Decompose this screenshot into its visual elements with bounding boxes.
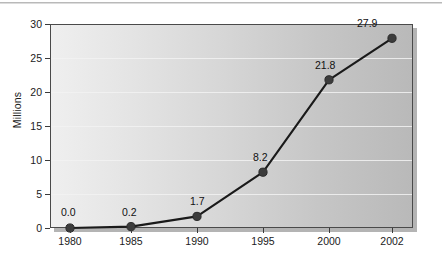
x-tick-mark-1980 bbox=[70, 228, 71, 233]
x-tick-label-1990: 1990 bbox=[175, 236, 219, 247]
chart-figure: Millions 30 25 20 15 10 5 0 0.0 bbox=[0, 0, 442, 270]
y-tick-mark-0 bbox=[45, 228, 50, 229]
x-tick-mark-1985 bbox=[131, 228, 132, 233]
x-tick-mark-1990 bbox=[197, 228, 198, 233]
x-tick-mark-2000 bbox=[329, 228, 330, 233]
series-polyline bbox=[70, 38, 392, 228]
data-label-2002: 27.9 bbox=[357, 18, 377, 29]
y-tick-label-30: 30 bbox=[0, 19, 42, 30]
x-tick-label-1980: 1980 bbox=[48, 236, 92, 247]
data-label-1980: 0.0 bbox=[61, 207, 76, 218]
data-point-2000[interactable] bbox=[325, 76, 333, 84]
data-point-1995[interactable] bbox=[259, 168, 267, 176]
data-series-line bbox=[50, 24, 413, 228]
data-label-2000: 21.8 bbox=[315, 60, 335, 71]
x-tick-label-1995: 1995 bbox=[241, 236, 285, 247]
y-tick-label-15: 15 bbox=[0, 121, 42, 132]
data-label-1995: 8.2 bbox=[253, 152, 268, 163]
data-point-2002[interactable] bbox=[388, 34, 396, 42]
y-axis-title: Millions bbox=[11, 75, 23, 145]
data-label-1985: 0.2 bbox=[122, 207, 137, 218]
x-tick-label-1985: 1985 bbox=[109, 236, 153, 247]
y-tick-label-5: 5 bbox=[0, 189, 42, 200]
x-tick-mark-1995 bbox=[263, 228, 264, 233]
y-tick-label-25: 25 bbox=[0, 53, 42, 64]
x-tick-label-2000: 2000 bbox=[307, 236, 351, 247]
data-label-1990: 1.7 bbox=[190, 196, 205, 207]
y-tick-label-10: 10 bbox=[0, 155, 42, 166]
data-point-1990[interactable] bbox=[193, 212, 201, 220]
x-tick-label-2002: 2002 bbox=[370, 236, 414, 247]
x-tick-mark-2002 bbox=[392, 228, 393, 233]
y-tick-label-0: 0 bbox=[0, 223, 42, 234]
top-divider-rule bbox=[0, 2, 442, 4]
y-tick-label-20: 20 bbox=[0, 87, 42, 98]
